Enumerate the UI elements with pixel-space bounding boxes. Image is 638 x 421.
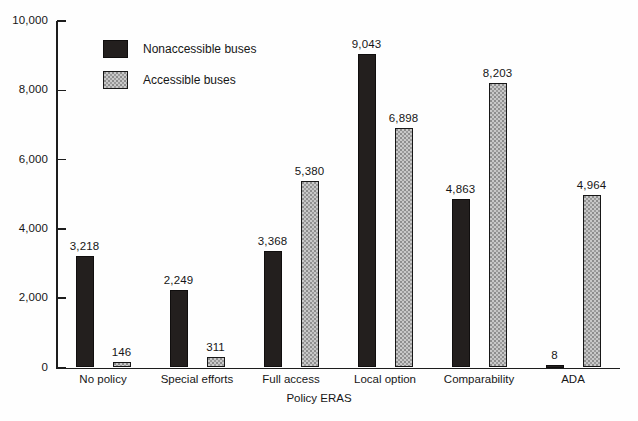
y-axis-tick-label: 6,000: [0, 153, 48, 165]
bar-value-label: 6,898: [374, 112, 434, 124]
y-axis-tick: [57, 159, 66, 161]
bar-accessible: [395, 128, 413, 367]
bar-chart-figure: 02,0004,0006,0008,00010,000 3,2181462,24…: [0, 0, 638, 421]
y-axis-tick: [57, 297, 66, 299]
bar-nonaccessible: [358, 54, 376, 367]
bar-nonaccessible: [170, 290, 188, 368]
bar-accessible: [113, 362, 131, 367]
legend-swatch-nonaccessible-icon: [103, 40, 128, 58]
x-axis-line: [56, 368, 620, 370]
legend-label-accessible: Accessible buses: [143, 73, 236, 87]
y-axis-tick-label: 0: [0, 361, 48, 373]
bar-nonaccessible: [546, 365, 564, 368]
y-axis-tick: [57, 367, 66, 369]
bar-accessible: [583, 195, 601, 367]
bar-value-label: 3,368: [243, 235, 303, 247]
bar-accessible: [207, 357, 225, 368]
bar-value-label: 8: [525, 349, 585, 361]
chart-legend: Nonaccessible buses Accessible buses: [103, 38, 256, 100]
bar-value-label: 3,218: [55, 240, 115, 252]
x-axis-category-label: ADA: [513, 373, 633, 385]
legend-label-nonaccessible: Nonaccessible buses: [143, 42, 256, 56]
bar-value-label: 5,380: [280, 165, 340, 177]
bar-value-label: 8,203: [468, 67, 528, 79]
legend-item-nonaccessible: Nonaccessible buses: [103, 38, 256, 60]
bar-value-label: 2,249: [149, 274, 209, 286]
y-axis-tick: [57, 20, 66, 22]
y-axis-tick: [57, 90, 66, 92]
bar-nonaccessible: [264, 251, 282, 368]
bar-accessible: [301, 181, 319, 367]
y-axis-tick-label: 4,000: [0, 222, 48, 234]
y-axis-tick-label: 10,000: [0, 14, 48, 26]
bar-value-label: 4,863: [431, 183, 491, 195]
bar-value-label: 9,043: [337, 38, 397, 50]
bar-value-label: 311: [186, 341, 246, 353]
bar-accessible: [489, 83, 507, 367]
y-axis-tick: [57, 228, 66, 230]
bar-nonaccessible: [452, 199, 470, 368]
legend-item-accessible: Accessible buses: [103, 69, 256, 91]
bar-value-label: 146: [92, 346, 152, 358]
y-axis-line: [56, 21, 58, 369]
y-axis-tick-label: 2,000: [0, 291, 48, 303]
y-axis-tick-label: 8,000: [0, 83, 48, 95]
legend-swatch-accessible-icon: [103, 71, 128, 89]
bar-value-label: 4,964: [562, 179, 622, 191]
x-axis-title: Policy ERAS: [0, 392, 638, 404]
